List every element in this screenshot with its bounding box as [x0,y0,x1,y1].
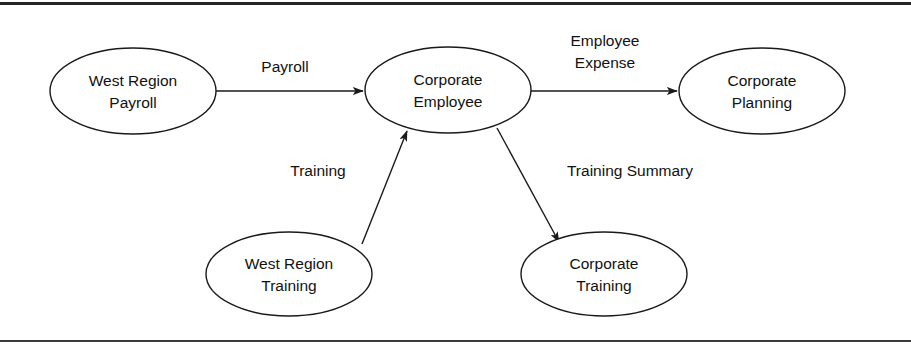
corporate-planning-label-line1: Corporate [728,72,797,89]
edge-payroll-flow[interactable]: Payroll [216,58,363,91]
edge-employee-expense-flow[interactable]: Employee Expense [531,32,677,91]
node-west-region-training[interactable]: West Region Training [206,232,372,316]
west-region-training-label-line1: West Region [245,255,333,272]
corporate-employee-ellipse [365,47,531,133]
corporate-training-label-line1: Corporate [570,255,639,272]
west-region-training-ellipse [206,232,372,316]
west-region-payroll-label-line1: West Region [89,72,177,89]
payroll-label: Payroll [261,58,308,75]
edge-training-summary-flow[interactable]: Training Summary [497,128,693,242]
node-corporate-employee[interactable]: Corporate Employee [365,47,531,133]
training-summary-arrow [497,128,559,242]
corporate-employee-label-line1: Corporate [414,71,483,88]
training-arrow [362,131,407,244]
node-west-region-payroll[interactable]: West Region Payroll [50,48,216,134]
corporate-training-ellipse [521,232,687,316]
diagram-canvas: Payroll Employee Expense Training Traini… [0,0,911,347]
corporate-planning-label-line2: Planning [732,94,792,111]
corporate-planning-ellipse [679,48,845,134]
corporate-training-label-line2: Training [576,277,631,294]
training-label: Training [290,162,345,179]
employee-expense-label-line2: Expense [575,54,635,71]
west-region-payroll-label-line2: Payroll [109,94,156,111]
west-region-payroll-ellipse [50,48,216,134]
training-summary-label: Training Summary [567,162,693,179]
node-corporate-planning[interactable]: Corporate Planning [679,48,845,134]
edge-training-flow[interactable]: Training [290,131,407,244]
data-flow-diagram-figure: Payroll Employee Expense Training Traini… [0,0,911,347]
node-corporate-training[interactable]: Corporate Training [521,232,687,316]
corporate-employee-label-line2: Employee [414,93,483,110]
west-region-training-label-line2: Training [261,277,316,294]
nodes-layer: West Region Payroll Corporate Employee C… [50,47,845,316]
employee-expense-label-line1: Employee [571,32,640,49]
